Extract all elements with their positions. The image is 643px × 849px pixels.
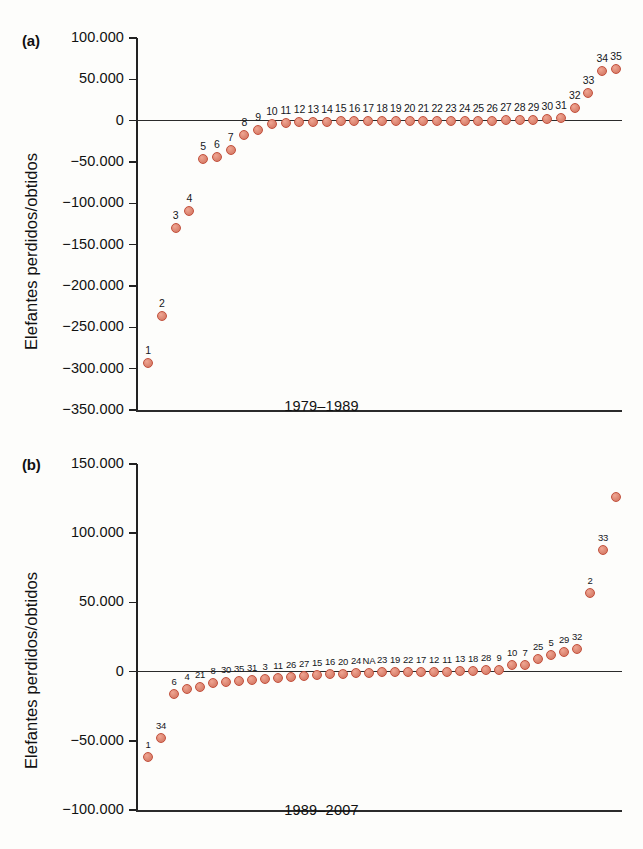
data-point-label: 34: [156, 720, 166, 731]
data-point-label: 4: [184, 671, 189, 682]
data-point-label: 6: [171, 676, 176, 687]
data-point-label: 26: [486, 102, 497, 114]
data-point: [253, 125, 263, 135]
data-point-label: 29: [528, 101, 539, 113]
data-point: [247, 675, 257, 685]
y-axis-tick: [129, 740, 137, 742]
data-point: [391, 116, 401, 126]
data-point: [442, 667, 452, 677]
y-axis-tick-label: 0: [4, 112, 124, 128]
data-point-label: 28: [514, 101, 525, 113]
data-point-label: 11: [273, 660, 282, 671]
data-point: [143, 752, 153, 762]
data-point-label: 3: [262, 661, 267, 672]
y-axis-tick: [129, 203, 137, 205]
y-axis-tick-label: −300.000: [4, 360, 124, 376]
data-point: [570, 103, 580, 113]
data-point-label: 10: [507, 647, 517, 658]
y-axis-tick: [129, 79, 137, 81]
data-point-label: 23: [377, 654, 387, 665]
data-point-label: 28: [481, 652, 491, 663]
data-point: [286, 672, 296, 682]
data-point-label: 1: [145, 739, 150, 750]
data-point-label: 33: [598, 532, 608, 543]
y-axis-tick-label: −50.000: [4, 732, 124, 748]
data-point: [364, 668, 374, 678]
data-point-label: 27: [299, 658, 309, 669]
y-axis-tick-label: 0: [4, 663, 124, 679]
data-point-label: 12: [294, 103, 305, 115]
data-point: [281, 118, 291, 128]
data-point-label: 9: [496, 652, 501, 663]
y-axis-tick-label: −50.000: [4, 153, 124, 169]
data-point-label: NA: [363, 655, 376, 666]
data-point-label: 5: [200, 140, 206, 152]
data-point-label: 17: [416, 654, 426, 665]
y-axis-tick: [129, 37, 137, 39]
y-axis-spine: [136, 38, 138, 411]
data-point: [494, 665, 504, 675]
data-point: [542, 114, 552, 124]
data-point: [336, 116, 346, 126]
y-axis-tick-label: 100.000: [4, 29, 124, 45]
data-point: [171, 223, 181, 233]
data-point: [260, 674, 270, 684]
data-point-label: 16: [325, 656, 335, 667]
data-point-label: 12: [429, 654, 439, 665]
data-point-label: 32: [572, 631, 582, 642]
data-point: [501, 115, 511, 125]
y-axis-tick: [129, 327, 137, 329]
y-axis-tick-label: −250.000: [4, 318, 124, 334]
data-point-label: 10: [266, 105, 277, 117]
data-point: [455, 666, 465, 676]
data-point: [299, 671, 309, 681]
y-axis-tick-label: −200.000: [4, 277, 124, 293]
data-point: [507, 660, 517, 670]
data-point: [363, 116, 373, 126]
data-point: [416, 667, 426, 677]
data-point-label: 35: [610, 50, 621, 62]
data-point-label: 8: [242, 116, 248, 128]
panel-b-x-caption: 1989–2007: [0, 802, 643, 818]
y-axis-tick-label: 50.000: [4, 70, 124, 86]
data-point: [611, 492, 621, 502]
y-axis-tick-label: −150.000: [4, 236, 124, 252]
data-point-label: 11: [442, 654, 451, 665]
y-axis-spine: [136, 464, 138, 811]
data-point-label: 19: [390, 654, 400, 665]
data-point-label: 9: [255, 111, 261, 123]
data-point: [184, 206, 194, 216]
data-point-label: 29: [559, 634, 569, 645]
data-point: [208, 678, 218, 688]
data-point-label: 11: [280, 104, 291, 116]
data-point: [533, 654, 543, 664]
data-point-label: 14: [321, 103, 332, 115]
y-axis-tick: [129, 161, 137, 163]
data-point: [212, 152, 222, 162]
data-point: [267, 119, 277, 129]
data-point: [520, 660, 530, 670]
data-point-label: 5: [548, 637, 553, 648]
data-point-label: 31: [247, 662, 257, 673]
y-axis-tick: [129, 463, 137, 465]
data-point-label: 2: [159, 297, 165, 309]
data-point-label: 32: [569, 89, 580, 101]
data-point-label: 8: [210, 665, 215, 676]
y-axis-tick-label: 150.000: [4, 455, 124, 471]
data-point: [429, 667, 439, 677]
data-point: [390, 667, 400, 677]
data-point: [221, 677, 231, 687]
data-point-label: 34: [597, 52, 608, 64]
data-point: [546, 650, 556, 660]
y-axis-tick: [129, 244, 137, 246]
data-point: [322, 117, 332, 127]
data-point-label: 15: [312, 657, 322, 668]
data-point: [226, 145, 236, 155]
data-point-label: 2: [587, 575, 592, 586]
data-point-label: 18: [376, 102, 387, 114]
data-point: [611, 64, 621, 74]
data-point-label: 21: [195, 669, 205, 680]
data-point: [169, 689, 179, 699]
data-point: [198, 154, 208, 164]
data-point: [338, 669, 348, 679]
